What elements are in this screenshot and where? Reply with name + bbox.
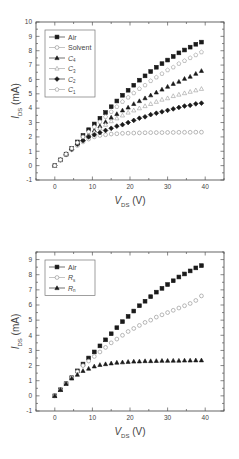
legend-label: Air	[68, 34, 77, 41]
y-tick-label: 9	[28, 33, 32, 40]
y-tick-label: 4	[28, 332, 32, 339]
y-tick-label: 2	[28, 362, 32, 369]
x-tick-label: 0	[53, 414, 57, 421]
chart-svg: 010203040-1012345678910VDS (V)IDS (mA)Ai…	[0, 0, 239, 230]
y-tick-label: 2	[28, 133, 32, 140]
legend-label: Air	[68, 264, 77, 271]
chart-svg: 010203040-10123456789VDS (V)IDS (mA)AirR…	[0, 230, 239, 459]
chart-ids-vs-vds-solvents: 010203040-1012345678910VDS (V)IDS (mA)Ai…	[0, 0, 239, 230]
x-tick-label: 10	[89, 183, 97, 190]
series-rs	[53, 294, 203, 398]
x-tick-label: 30	[164, 183, 172, 190]
y-tick-label: 3	[28, 119, 32, 126]
chart-ids-vs-vds-rs-rn: 010203040-10123456789VDS (V)IDS (mA)AirR…	[0, 230, 239, 459]
y-tick-label: 5	[28, 90, 32, 97]
x-tick-label: 0	[53, 183, 57, 190]
x-tick-label: 40	[202, 183, 210, 190]
x-tick-label: 20	[126, 183, 134, 190]
x-tick-label: 30	[164, 414, 172, 421]
y-tick-label: 1	[28, 148, 32, 155]
y-tick-label: 0	[28, 392, 32, 399]
y-tick-label: 5	[28, 316, 32, 323]
legend: AirRsRn	[45, 260, 95, 296]
y-tick-label: 7	[28, 61, 32, 68]
x-axis-label: VDS (V)	[114, 426, 145, 439]
y-tick-label: 3	[28, 347, 32, 354]
y-tick-label: 6	[28, 301, 32, 308]
y-tick-label: 0	[28, 162, 32, 169]
legend: AirSolventC4C3C2C1	[45, 30, 95, 97]
y-tick-label: 6	[28, 76, 32, 83]
y-tick-label: 10	[25, 18, 33, 25]
y-tick-label: 9	[28, 256, 32, 263]
x-tick-label: 40	[202, 414, 210, 421]
series-solvent	[53, 130, 203, 167]
y-tick-label: 8	[28, 271, 32, 278]
y-tick-label: 7	[28, 286, 32, 293]
x-tick-label: 10	[89, 414, 97, 421]
y-axis-label: IDS (mA)	[10, 83, 23, 119]
y-tick-label: 8	[28, 47, 32, 54]
x-axis-label: VDS (V)	[114, 195, 145, 208]
x-tick-label: 20	[126, 414, 134, 421]
series-rn	[53, 358, 204, 397]
y-tick-label: -1	[26, 176, 32, 183]
legend-label: Solvent	[68, 44, 91, 51]
y-axis-label: IDS (mA)	[10, 314, 23, 350]
y-tick-label: 1	[28, 377, 32, 384]
y-tick-label: -1	[26, 407, 32, 414]
y-tick-label: 4	[28, 104, 32, 111]
